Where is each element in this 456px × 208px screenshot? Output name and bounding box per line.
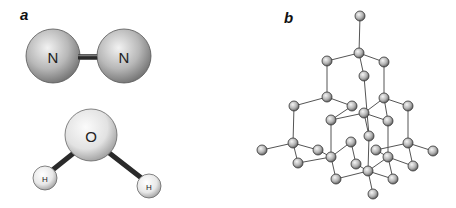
panel-label-a: a — [20, 6, 28, 23]
carbon-atom — [403, 138, 413, 148]
atom-label: N — [119, 49, 130, 66]
lattice-atoms — [257, 11, 438, 199]
diamond-lattice — [257, 11, 438, 199]
atom-label: H — [146, 183, 152, 192]
lattice-bond — [359, 16, 360, 53]
carbon-atom — [293, 158, 303, 168]
carbon-atom — [428, 146, 438, 156]
carbon-atom — [388, 174, 398, 184]
carbon-atom — [354, 48, 364, 58]
carbon-atom — [371, 145, 381, 155]
carbon-atom — [383, 152, 393, 162]
carbon-atom — [326, 115, 336, 125]
atom-label: O — [85, 128, 97, 145]
bond — [50, 152, 75, 172]
carbon-atom — [288, 138, 298, 148]
lattice-bond — [364, 76, 369, 136]
bond — [108, 152, 144, 180]
carbon-atom — [355, 11, 365, 21]
molecule-figure: a b NN OHH — [0, 0, 456, 208]
carbon-atom — [313, 145, 323, 155]
nitrogen-molecule: NN — [26, 29, 151, 83]
carbon-atom — [326, 152, 336, 162]
atom-label: H — [42, 175, 48, 184]
carbon-atom — [379, 57, 389, 67]
carbon-atom — [289, 101, 299, 111]
carbon-atom — [346, 137, 356, 147]
carbon-atom — [359, 108, 369, 118]
carbon-atom — [363, 166, 373, 176]
carbon-atom — [364, 131, 374, 141]
panel-label-b: b — [284, 9, 293, 26]
carbon-atom — [383, 116, 393, 126]
carbon-atom — [359, 71, 369, 81]
carbon-atom — [408, 161, 418, 171]
lattice-bond — [293, 106, 294, 143]
carbon-atom — [347, 101, 357, 111]
atom-label: N — [48, 49, 59, 66]
carbon-atom — [331, 174, 341, 184]
carbon-atom — [403, 101, 413, 111]
carbon-atom — [322, 92, 332, 102]
carbon-atom — [257, 145, 267, 155]
carbon-atom — [368, 189, 378, 199]
water-molecule: OHH — [33, 109, 161, 198]
carbon-atom — [379, 93, 389, 103]
carbon-atom — [322, 56, 332, 66]
carbon-atom — [351, 159, 361, 169]
